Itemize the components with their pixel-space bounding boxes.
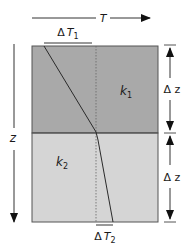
layer-2-thickness: Δ z	[164, 136, 181, 222]
delta-t2-label: ΔT2	[94, 225, 115, 245]
layer-1	[32, 46, 158, 133]
depth-axis-label: z	[9, 131, 17, 145]
svg-text:Δ z: Δ z	[164, 171, 181, 184]
heat-conduction-diagram: T ΔT1 k1 k2 z Δ z Δ z	[0, 0, 189, 251]
svg-text:ΔT1: ΔT1	[57, 26, 78, 41]
layer-2	[32, 133, 158, 222]
depth-axis: z	[9, 44, 17, 222]
temperature-axis: T	[32, 12, 150, 25]
delta-t1-label: ΔT1	[44, 26, 92, 43]
svg-text:Δ z: Δ z	[164, 83, 181, 96]
temperature-axis-label: T	[100, 12, 108, 25]
layer-1-thickness: Δ z	[164, 45, 181, 130]
svg-text:ΔT2: ΔT2	[94, 230, 115, 245]
